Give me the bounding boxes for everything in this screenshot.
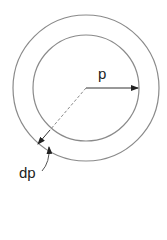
- radius-dashed-line: [50, 88, 86, 130]
- radius-label: p: [98, 66, 106, 81]
- thickness-arrow: [38, 130, 50, 144]
- thickness-label: dp: [19, 165, 36, 180]
